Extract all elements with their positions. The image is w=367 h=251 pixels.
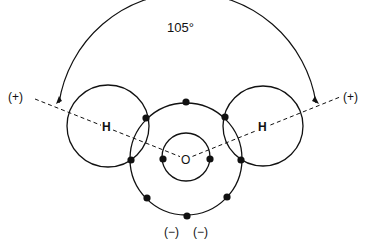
right-charge-label: (+) bbox=[343, 90, 358, 104]
angle-label: 105° bbox=[167, 20, 194, 35]
hydrogen-label-right: H bbox=[258, 120, 267, 134]
water-molecule-diagram: 105° (+) (+) H H O (−) (−) bbox=[0, 0, 367, 251]
bottom-charge-label-1: (−) bbox=[164, 225, 179, 239]
left-charge-label: (+) bbox=[8, 90, 23, 104]
bottom-charge-label-2: (−) bbox=[193, 225, 208, 239]
angle-arc bbox=[59, 0, 316, 103]
hydrogen-label-left: H bbox=[102, 120, 111, 134]
oxygen-label: O bbox=[181, 153, 190, 167]
